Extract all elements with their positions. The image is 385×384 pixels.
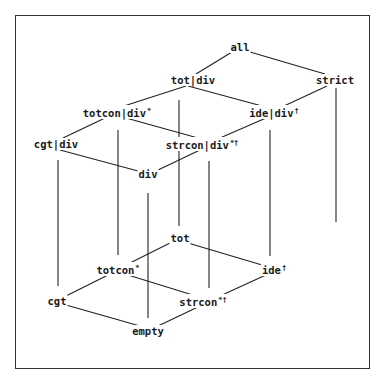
- node-ide: ide†: [261, 262, 287, 276]
- node-label: all: [231, 41, 250, 53]
- node-label: cgt|div: [34, 138, 78, 150]
- edge-all-tot_div: [196, 52, 232, 74]
- node-label: strcon: [179, 296, 217, 308]
- lattice-edges: [0, 0, 385, 384]
- node-superscript: *: [147, 107, 151, 115]
- edge-all-strict: [250, 52, 325, 74]
- edge-totcon_div-cgt_div: [63, 118, 105, 138]
- edge-cgt-empty: [66, 305, 140, 326]
- edge-ide_div-strcon_div: [220, 118, 266, 138]
- node-strcon: strcon*†: [178, 294, 227, 308]
- node-label: div: [139, 168, 158, 180]
- edge-tot-ide: [188, 243, 262, 265]
- node-ide_div: ide|div†: [248, 105, 299, 119]
- node-strict: strict: [315, 74, 355, 86]
- node-label: tot|div: [171, 74, 215, 86]
- edge-tot-totcon: [130, 243, 170, 263]
- node-superscript: *†: [230, 139, 238, 147]
- node-cgt_div: cgt|div: [33, 138, 79, 150]
- node-superscript: *: [135, 264, 139, 272]
- node-label: ide: [262, 264, 281, 276]
- edge-totcon_div-strcon_div: [126, 118, 198, 138]
- node-label: totcon: [96, 264, 134, 276]
- node-superscript: †: [282, 264, 286, 272]
- node-label: strict: [316, 74, 354, 86]
- edge-totcon-strcon: [128, 275, 196, 296]
- node-label: empty: [132, 325, 164, 337]
- edge-tot_div-totcon_div: [124, 86, 186, 106]
- node-superscript: *†: [218, 296, 226, 304]
- node-div: div: [138, 168, 159, 180]
- node-strcon_div: strcon|div*†: [165, 137, 240, 151]
- node-label: tot: [171, 232, 190, 244]
- node-label: cgt: [48, 295, 67, 307]
- edge-totcon-cgt: [66, 275, 108, 296]
- node-label: totcon|div: [83, 107, 146, 119]
- node-empty: empty: [131, 325, 165, 337]
- node-superscript: †: [295, 107, 299, 115]
- edge-cgt_div-div: [60, 150, 138, 171]
- node-tot: tot: [170, 232, 191, 244]
- edge-strcon-empty: [158, 306, 200, 326]
- node-totcon_div: totcon|div*: [82, 105, 152, 119]
- node-totcon: totcon*: [95, 262, 140, 276]
- node-all: all: [230, 41, 251, 53]
- node-cgt: cgt: [47, 295, 68, 307]
- node-tot_div: tot|div: [170, 74, 216, 86]
- edge-tot_div-ide_div: [188, 86, 262, 106]
- edge-strict-ide_div: [284, 86, 327, 106]
- node-label: strcon|div: [166, 139, 229, 151]
- node-label: ide|div: [249, 107, 293, 119]
- edge-ide-strcon: [220, 274, 268, 296]
